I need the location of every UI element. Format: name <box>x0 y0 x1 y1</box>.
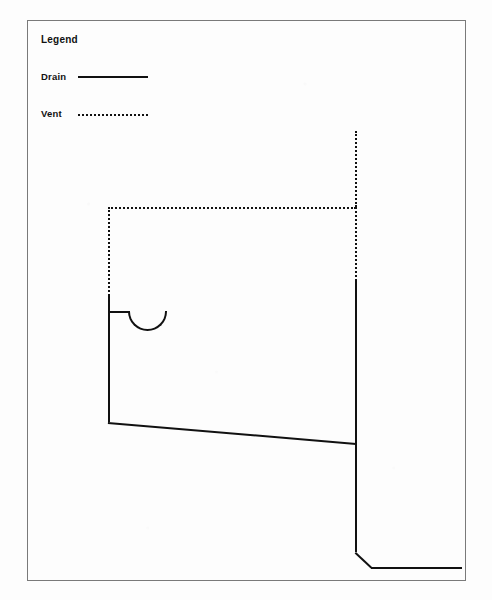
drain-line-sample <box>78 76 148 78</box>
vent-stack-middle <box>355 207 357 281</box>
vent-riser-left <box>108 207 110 296</box>
legend-label-vent: Vent <box>41 108 62 119</box>
vent-line-sample <box>78 114 148 116</box>
main-stack <box>355 281 357 552</box>
trap-inlet-stub <box>108 311 129 313</box>
legend-label-drain: Drain <box>41 71 66 82</box>
drawing-border-frame <box>27 20 466 581</box>
vent-horizontal-branch <box>108 207 356 209</box>
vent-stack-upper <box>355 131 357 207</box>
drawing-canvas: Legend Drain Vent <box>0 0 492 600</box>
fixture-drop-left <box>108 296 110 422</box>
legend-title: Legend <box>41 34 78 45</box>
building-sewer-run <box>371 567 462 569</box>
